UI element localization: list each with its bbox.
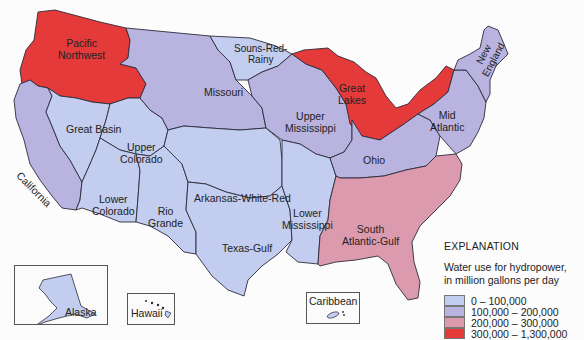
label-line: Mississippi	[285, 123, 336, 135]
label-line: Atlantic	[430, 122, 464, 134]
label-line: Grande	[148, 218, 183, 230]
label-line: Great	[338, 83, 366, 95]
legend-item-label: 300,000 – 1,300,000	[471, 328, 567, 340]
legend-subtitle-line: in million gallons per day	[444, 274, 567, 287]
label-line: Lower	[92, 194, 135, 206]
inset-label-hawaii: Hawaii	[131, 307, 163, 319]
label-line: Mid	[430, 110, 464, 122]
inset-label-alaska: Alaska	[65, 306, 97, 318]
label-line: Rio	[148, 206, 183, 218]
legend-subtitle-line: Water use for hydropower,	[444, 261, 567, 274]
label-line: Northwest	[58, 50, 105, 62]
label-ohio: Ohio	[363, 155, 385, 167]
label-line: Upper	[120, 142, 163, 154]
legend-title: EXPLANATION	[444, 240, 567, 252]
label-great-basin: Great Basin	[66, 124, 121, 136]
legend: EXPLANATION Water use for hydropower, in…	[444, 240, 567, 339]
legend-item: 200,000 – 300,000	[444, 317, 567, 328]
label-upper-mississippi: Upper Mississippi	[285, 111, 336, 134]
legend-swatch-low	[444, 295, 465, 306]
label-missouri: Missouri	[204, 87, 243, 99]
label-lower-mississippi: Lower Mississippi	[282, 208, 333, 231]
label-south-atlantic-gulf: South Atlantic-Gulf	[342, 224, 399, 247]
label-line: South	[342, 224, 399, 236]
label-great-lakes: Great Lakes	[338, 83, 366, 106]
label-line: Atlantic-Gulf	[342, 236, 399, 248]
legend-item: 300,000 – 1,300,000	[444, 328, 567, 339]
inset-hawaii: Hawaii	[127, 293, 175, 325]
label-rio-grande: Rio Grande	[148, 206, 183, 229]
label-line: Upper	[285, 111, 336, 123]
inset-alaska: Alaska	[14, 265, 108, 325]
legend-swatch-high	[444, 328, 465, 339]
label-arkansas-white-red: Arkansas-White-Red	[194, 193, 291, 205]
label-texas-gulf: Texas-Gulf	[222, 243, 272, 255]
label-line: Souns-Red-	[234, 43, 287, 54]
label-line: Pacific	[58, 38, 105, 50]
label-pacific-northwest: Pacific Northwest	[58, 38, 105, 61]
label-souris-red-rainy: Souns-Red- Rainy	[234, 43, 287, 65]
label-mid-atlantic: Mid Atlantic	[430, 110, 464, 133]
label-line: Colorado	[120, 154, 163, 166]
legend-swatch-mid-high	[444, 317, 465, 328]
inset-caribbean: Caribbean	[306, 292, 360, 324]
label-line: Mississippi	[282, 220, 333, 232]
label-line: Colorado	[92, 206, 135, 218]
legend-item: 100,000 – 200,000	[444, 306, 567, 317]
inset-label-caribbean: Caribbean	[309, 295, 357, 307]
label-upper-colorado: Upper Colorado	[120, 142, 163, 165]
legend-subtitle: Water use for hydropower, in million gal…	[444, 261, 567, 287]
label-line: Lakes	[338, 95, 366, 107]
label-line: Rainy	[234, 54, 287, 65]
legend-item: 0 – 100,000	[444, 295, 567, 306]
legend-swatch-mid-low	[444, 306, 465, 317]
label-line: Lower	[282, 208, 333, 220]
label-lower-colorado: Lower Colorado	[92, 194, 135, 217]
